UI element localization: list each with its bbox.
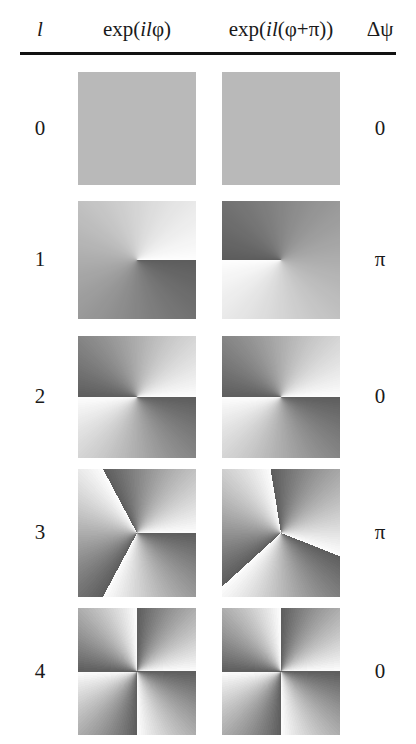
phase-panel-b (222, 201, 340, 319)
row-charge-label: 4 (20, 661, 60, 682)
header-phase-a: exp(ilφ) (78, 14, 196, 44)
row-delta-psi-label: π (352, 522, 408, 543)
header-l: l (20, 14, 60, 44)
row-charge-label: 3 (20, 522, 60, 543)
phase-map-image (222, 469, 340, 597)
header-phase-a-prefix: exp( (103, 17, 140, 41)
phase-map-image (222, 201, 340, 319)
header-phase-b-italic: il (266, 17, 278, 41)
phase-map-image (222, 72, 340, 185)
row-delta-psi-label: 0 (352, 386, 408, 407)
table-row: 20 (0, 336, 416, 458)
row-delta-psi-label: π (352, 249, 408, 270)
phase-panel-a (78, 469, 196, 597)
phase-map-image (78, 336, 196, 458)
row-delta-psi-label: 0 (352, 118, 408, 139)
row-charge-label: 1 (20, 249, 60, 270)
phase-map-image (78, 469, 196, 597)
header-phase-a-italic: il (140, 17, 152, 41)
header-phase-b-suffix: (φ+π)) (278, 17, 334, 41)
header-phase-b-prefix: exp( (229, 17, 266, 41)
header-l-label: l (37, 17, 43, 41)
table-row: 1π (0, 201, 416, 319)
phase-panel-b (222, 608, 340, 735)
phase-panel-a (78, 201, 196, 319)
row-charge-label: 2 (20, 386, 60, 407)
header-rule (20, 52, 396, 55)
phase-map-figure: l exp(ilφ) exp(il(φ+π)) Δψ 001π203π40 (0, 0, 416, 744)
phase-map-image (222, 608, 340, 735)
phase-map-image (222, 336, 340, 458)
phase-panel-b (222, 72, 340, 185)
row-delta-psi-label: 0 (352, 661, 408, 682)
table-row: 00 (0, 72, 416, 185)
header-delta-psi-label: Δψ (367, 17, 394, 41)
phase-panel-a (78, 72, 196, 185)
phase-map-image (78, 201, 196, 319)
header-delta-psi: Δψ (352, 14, 408, 44)
phase-map-image (78, 608, 196, 735)
phase-panel-b (222, 469, 340, 597)
phase-panel-b (222, 336, 340, 458)
table-row: 3π (0, 469, 416, 597)
table-header: l exp(ilφ) exp(il(φ+π)) Δψ (0, 14, 416, 50)
phase-map-image (78, 72, 196, 185)
header-phase-b: exp(il(φ+π)) (216, 14, 346, 44)
phase-panel-a (78, 608, 196, 735)
table-row: 40 (0, 608, 416, 735)
phase-panel-a (78, 336, 196, 458)
header-phase-a-suffix: φ) (152, 17, 171, 41)
row-charge-label: 0 (20, 118, 60, 139)
